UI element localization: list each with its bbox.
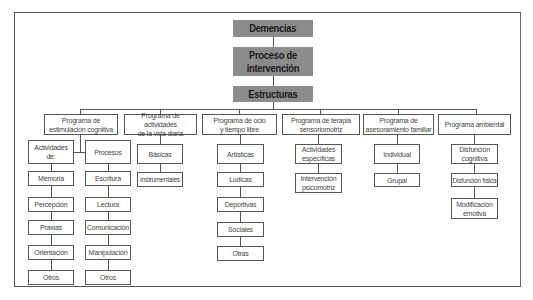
- item-otros: Otros: [28, 270, 74, 285]
- connector: [73, 152, 85, 153]
- item-disfuncion-fisica: Disfunción física: [451, 173, 498, 187]
- item-manipulacion: Manipulación: [85, 245, 131, 260]
- program-asesoramiento-familiar: Programa de asesoramiento familiar: [363, 114, 434, 135]
- item-actividades-especificas: Actividades específicas: [295, 144, 342, 164]
- connector: [80, 135, 81, 152]
- item-modificacion-emotiva: Modificación emotiva: [451, 198, 498, 219]
- item-ludicas: Lúdicas: [217, 172, 264, 187]
- item-praxias: Praxias: [28, 220, 74, 235]
- item-individual: Individual: [374, 144, 420, 164]
- program-ocio-tiempo-libre: Programa de ocio y tiempo libre: [202, 114, 277, 135]
- program-actividades-vida-diaria: Programa de actividades de la vida diari…: [124, 114, 197, 135]
- node-estructuras: Estructuras: [233, 86, 313, 102]
- item-otras: Otras: [217, 246, 264, 261]
- item-comunicacion: Comunicación: [85, 220, 131, 235]
- connector: [273, 76, 274, 86]
- item-otros: Otros: [85, 270, 131, 285]
- item-orientacion: Orientación: [28, 245, 74, 260]
- node-proceso-intervencion: Proceso de intervención: [233, 47, 313, 76]
- root-label: Demencias: [249, 22, 296, 35]
- estructuras-label: Estructuras: [248, 88, 297, 101]
- item-escritura: Escritura: [85, 171, 131, 186]
- item-grupal: Grupal: [374, 173, 420, 187]
- program-bus-line: [80, 109, 477, 110]
- item-percepcion: Percepción: [28, 197, 74, 212]
- program-ambiental: Programa ambiental: [438, 114, 511, 135]
- program-estimulacion-cognitiva: Programa de estimulación cognitiva: [44, 114, 118, 135]
- item-basicas: Básicas: [137, 144, 183, 164]
- group-procesos: Procesos: [85, 140, 131, 164]
- item-sociales: Sociales: [217, 222, 264, 237]
- program-terapia-sensoriomotriz: Programa de terapia sensoriomotriz: [282, 114, 360, 135]
- connector: [273, 102, 274, 109]
- proceso-label: Proceso de intervención: [247, 49, 300, 75]
- item-instrumentales: Instrumentales: [137, 172, 183, 187]
- item-disfuncion-cognitiva: Disfunción cognitiva: [451, 144, 498, 164]
- item-lectura: Lectura: [85, 197, 131, 212]
- group-actividades-de: Actividades de:: [28, 140, 74, 164]
- item-artisticas: Artísticas: [217, 144, 264, 164]
- item-intervencion-psicomotriz: Intervención psicomotriz: [295, 173, 342, 193]
- item-memoria: Memoria: [28, 171, 74, 186]
- root-node-demencias: Demencias: [233, 20, 313, 37]
- item-deportivas: Deportivas: [217, 197, 264, 212]
- connector: [273, 37, 274, 47]
